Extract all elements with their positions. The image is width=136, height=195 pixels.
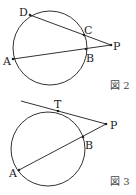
point-a-fig3 (18, 169, 21, 172)
tangent-pt (21, 101, 106, 124)
label-b: B (86, 52, 94, 65)
figure-3: T P B A 図 3 (8, 98, 130, 187)
label-p: P (113, 40, 121, 53)
secant-pd (30, 15, 111, 45)
label-c: C (84, 24, 92, 37)
point-b (85, 48, 88, 51)
point-p-fig3 (105, 123, 108, 126)
caption-fig2: 図 2 (110, 80, 130, 91)
point-b-fig3 (82, 136, 85, 139)
caption-fig3: 図 3 (110, 176, 130, 187)
label-t: T (54, 98, 62, 111)
secant-pa (13, 45, 111, 59)
label-p-fig3: P (110, 119, 118, 132)
geometry-figures: D C P B A 図 2 T P B A 図 3 (0, 0, 136, 195)
figure-2: D C P B A 図 2 (2, 6, 130, 91)
point-d (29, 14, 32, 17)
label-a: A (2, 55, 12, 68)
label-a-fig3: A (8, 167, 18, 180)
circle-fig3 (11, 112, 85, 186)
point-a (12, 58, 15, 61)
point-p (110, 44, 113, 47)
label-d: D (19, 6, 28, 19)
label-b-fig3: B (85, 139, 93, 152)
